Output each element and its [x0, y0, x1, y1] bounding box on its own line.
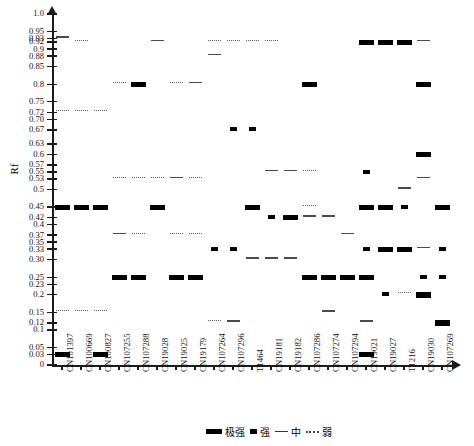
band-CN107255-rf0.37	[113, 233, 126, 235]
band-T1464-rf0.92	[246, 40, 259, 41]
band-CN19030-rf0.6	[416, 152, 431, 157]
band-CN19021-rf0.12	[360, 320, 373, 322]
band-CN19030-rf0.92	[417, 40, 430, 42]
band-CN19030-rf0.33	[417, 247, 430, 249]
band-CN100669-rf0.92	[75, 40, 88, 41]
y-tick	[47, 241, 57, 242]
legend-label-med: 中	[291, 424, 301, 439]
band-CN107288-rf0.53	[132, 177, 145, 178]
band-T1464-rf0.3	[246, 257, 259, 259]
band-CN19181-rf0.92	[265, 40, 278, 41]
legend-item-weak: 弱	[306, 424, 332, 439]
y-tick	[47, 154, 57, 155]
band-T1464-rf0.67	[249, 127, 256, 131]
y-tick	[47, 55, 57, 56]
band-CN107296-rf0.92	[227, 40, 240, 41]
y-tick-label: 0	[0, 360, 44, 369]
y-tick-label: 0.8	[0, 80, 44, 89]
band-CN107255-rf0.8	[113, 82, 126, 83]
x-tick	[308, 365, 309, 370]
band-T1464-rf0.45	[245, 205, 260, 210]
band-CN19181-rf0.42	[268, 215, 275, 219]
band-CN19021-rf0.03	[359, 352, 374, 357]
x-tick	[118, 365, 119, 370]
band-CN19030-rf0.2	[416, 292, 431, 297]
band-CN19021-rf0.92	[359, 40, 374, 45]
y-tick	[47, 129, 57, 130]
y-tick-label: 0.67	[0, 125, 44, 134]
y-tick	[47, 322, 57, 323]
x-tick	[232, 365, 233, 370]
band-CN107264-rf0.88	[208, 54, 221, 56]
x-tick	[194, 365, 195, 370]
band-CN101397-rf0.03	[55, 352, 70, 357]
y-tick-label: 0.70	[0, 115, 44, 124]
x-tick-label-CN107296: CN107296	[237, 333, 246, 372]
band-CN100827-rf0.15	[94, 310, 107, 311]
y-tick	[47, 38, 57, 39]
y-tick	[47, 66, 57, 67]
band-CN19027-rf0.45	[378, 205, 393, 210]
x-tick-label-CN19179: CN19179	[199, 338, 208, 372]
band-CN101397-rf0.45	[55, 205, 70, 210]
y-tick	[47, 259, 57, 260]
y-tick	[47, 364, 57, 365]
band-CN100669-rf0.45	[74, 205, 89, 210]
x-tick	[384, 365, 385, 370]
y-tick-label: 0.4	[0, 220, 44, 229]
x-tick-label-CN19028: CN19028	[161, 338, 170, 372]
y-tick	[47, 31, 57, 32]
band-T1216-rf0.33	[397, 247, 412, 252]
x-tick	[99, 365, 100, 370]
y-tick	[47, 224, 57, 225]
x-tick	[270, 365, 271, 370]
y-tick-label: 0.6	[0, 150, 44, 159]
y-tick	[47, 277, 57, 278]
band-CN19027-rf0.92	[378, 40, 393, 45]
band-CN19025-rf0.53	[170, 177, 183, 179]
x-tick-label-CN107274: CN107274	[332, 333, 341, 372]
y-tick-label: 0.2	[0, 290, 44, 299]
band-CN107286-rf0.25	[302, 275, 317, 280]
band-CN107255-rf0.53	[113, 177, 126, 178]
band-CN19021-rf0.25	[359, 275, 374, 280]
x-tick-label-CN19181: CN19181	[275, 338, 284, 372]
legend-item-med: 中	[275, 424, 301, 439]
band-CN107274-rf0.25	[321, 275, 336, 280]
y-tick	[47, 48, 57, 49]
y-tick	[47, 112, 57, 113]
x-tick	[441, 365, 442, 370]
y-tick-label: 0.33	[0, 245, 44, 254]
band-CN107294-rf0.25	[340, 275, 355, 280]
band-CN19025-rf0.8	[170, 82, 183, 83]
legend-item-vstrong: 极强	[206, 424, 245, 439]
band-CN100669-rf0.72	[75, 110, 88, 111]
y-tick-label: 0.1	[0, 325, 44, 334]
y-tick	[47, 217, 57, 218]
band-CN100669-rf0.15	[75, 310, 88, 311]
legend-swatch-med-icon	[275, 431, 288, 433]
x-tick-label-CN19025: CN19025	[180, 338, 189, 372]
band-CN107264-rf0.12	[208, 320, 221, 321]
y-tick	[47, 178, 57, 179]
band-CN19028-rf0.53	[151, 177, 164, 178]
y-tick-label: 0.15	[0, 308, 44, 317]
band-CN101397-rf0.93	[56, 36, 69, 38]
band-T1216-rf0.45	[401, 205, 408, 209]
band-CN19182-rf0.3	[284, 257, 297, 259]
x-tick	[289, 365, 290, 370]
band-T1216-rf0.5	[398, 187, 411, 189]
band-CN107296-rf0.12	[227, 320, 240, 322]
y-tick-label: 1.0	[0, 9, 44, 18]
x-tick	[175, 365, 176, 370]
band-CN107294-rf0.37	[341, 233, 354, 235]
y-tick	[47, 189, 57, 190]
x-tick	[61, 365, 62, 370]
band-CN19021-rf0.55	[363, 170, 370, 174]
y-tick	[47, 41, 57, 42]
band-CN100827-rf0.72	[94, 110, 107, 111]
legend: 极强 强 中 弱	[206, 424, 332, 439]
band-CN101397-rf0.72	[56, 110, 69, 111]
band-CN19021-rf0.45	[359, 205, 374, 210]
x-tick-label-CN107255: CN107255	[123, 333, 132, 372]
